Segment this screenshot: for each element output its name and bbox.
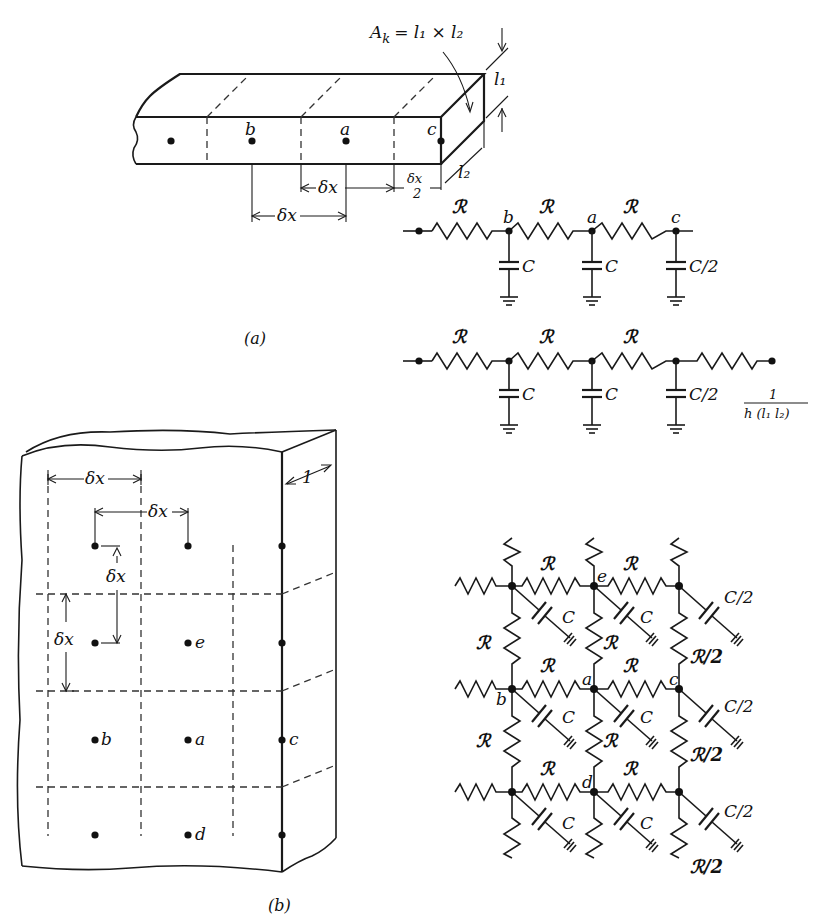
resistor-label: ℛ <box>540 553 556 574</box>
label-c: c <box>289 729 299 749</box>
capacitor-label: C <box>640 607 653 627</box>
resistor-label: ℛ <box>623 196 639 217</box>
boundary-resistance-denominator: h (l₁ l₂) <box>744 406 790 421</box>
dim-half-den: 2 <box>412 186 421 201</box>
capacitor-label: C <box>562 607 575 627</box>
label-node-b: b <box>245 119 256 139</box>
block-b: 1 e b a c d δx <box>17 430 336 872</box>
capacitor-label: C <box>562 813 575 833</box>
label-a: a <box>195 729 205 749</box>
label-b: b <box>101 729 112 749</box>
net-node-c: c <box>669 669 679 689</box>
resistor-label: ℛ <box>452 326 468 347</box>
node-d <box>184 831 191 838</box>
capacitor-half-label: C/2 <box>724 696 754 716</box>
net-node-b: b <box>496 689 507 709</box>
caption-b: (b) <box>268 896 291 915</box>
resistor-half-label: ℛ/2 <box>690 646 723 667</box>
resistor-label: ℛ <box>476 632 492 653</box>
network-b: e b a c d ℛ ℛ ℛ ℛ ℛ/2 ℛ ℛ ℛ ℛ ℛ/2 ℛ ℛ ℛ/… <box>455 538 754 877</box>
resistor-half-label: ℛ/2 <box>690 856 723 877</box>
resistor-half-label: ℛ/2 <box>690 744 723 765</box>
area-label: Ak= l₁ × l₂ <box>368 22 464 46</box>
label-d: d <box>195 824 206 844</box>
node-b-label: b <box>503 207 514 227</box>
circuit-a2: ℛ ℛ ℛ C C C/2 1 h (l₁ l₂) <box>403 326 808 433</box>
resistor-label: ℛ <box>623 655 639 676</box>
dim-dx: δx <box>148 501 168 521</box>
capacitor-ground <box>582 231 602 305</box>
capacitor-half-label: C/2 <box>724 587 754 607</box>
resistor-label: ℛ <box>623 553 639 574</box>
node <box>278 542 285 549</box>
resistor-label: ℛ <box>452 196 468 217</box>
node <box>278 831 285 838</box>
node <box>184 542 191 549</box>
node-a <box>184 736 191 743</box>
boundary-resistance-numerator: 1 <box>769 387 777 402</box>
label-node-a: a <box>340 119 350 139</box>
capacitor-label: C <box>522 384 535 404</box>
node <box>91 831 98 838</box>
resistor-label: ℛ <box>539 326 555 347</box>
resistor-label: ℛ <box>540 655 556 676</box>
dim-dx: δx <box>106 566 126 586</box>
node-b <box>91 736 98 743</box>
node-c <box>278 736 285 743</box>
capacitor-label: C <box>640 707 653 727</box>
resistor-label: ℛ <box>539 196 555 217</box>
dim-half-num: δx <box>407 171 423 186</box>
depth-label: 1 <box>302 467 313 487</box>
capacitor-label: C/2 <box>689 384 719 404</box>
net-node-a: a <box>582 669 592 689</box>
capacitor-label: C/2 <box>689 256 719 276</box>
dim-l1: l₁ <box>494 69 506 89</box>
node-c-label: c <box>671 207 681 227</box>
node <box>278 639 285 646</box>
dim-l2: l₂ <box>458 162 470 182</box>
dim-dx: δx <box>85 468 105 488</box>
capacitor-label: C <box>522 256 535 276</box>
capacitor-label: C <box>640 813 653 833</box>
capacitor-half-label: C/2 <box>724 801 754 821</box>
circuit-a1: ℛ ℛ ℛ b a c C C C/2 <box>403 196 719 305</box>
resistor-label: ℛ <box>603 632 619 653</box>
node-a-label: a <box>587 207 597 227</box>
resistor-label: ℛ <box>623 326 639 347</box>
node-e <box>184 639 191 646</box>
label-e: e <box>195 632 205 652</box>
caption-a: (a) <box>244 329 266 348</box>
node <box>91 542 98 549</box>
capacitor-ground <box>582 361 602 433</box>
capacitor-ground <box>666 361 686 433</box>
capacitor-label: C <box>605 384 618 404</box>
dim-dx: δx <box>54 629 74 649</box>
slab-a: b a c Ak= l₁ × l₂ l₁ l₂ δx δx <box>133 22 508 225</box>
resistor-label: ℛ <box>623 758 639 779</box>
dim-dx-lower: δx <box>277 205 297 225</box>
capacitor-ground <box>499 231 519 305</box>
capacitor-label: C <box>562 707 575 727</box>
diagonal-capacitors <box>512 586 743 852</box>
figure-canvas: b a c Ak= l₁ × l₂ l₁ l₂ δx δx <box>0 0 818 921</box>
node-c-a <box>437 137 444 144</box>
net-node-e: e <box>597 566 607 586</box>
label-node-c: c <box>427 119 437 139</box>
net-node-d: d <box>582 772 593 792</box>
node-left-a <box>167 137 174 144</box>
resistor-label: ℛ <box>540 758 556 779</box>
capacitor-ground <box>499 361 519 433</box>
node <box>91 639 98 646</box>
capacitor-ground <box>666 231 686 305</box>
dim-dx-upper: δx <box>318 177 338 197</box>
resistor-label: ℛ <box>603 730 619 751</box>
capacitor-label: C <box>605 256 618 276</box>
resistor-label: ℛ <box>476 730 492 751</box>
